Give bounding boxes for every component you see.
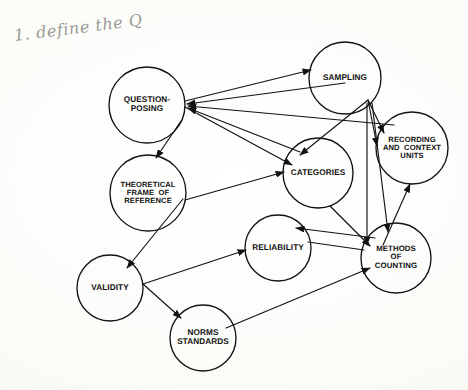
node-circle-question-posing [109,67,185,143]
edge-norms-standards-to-methods-of-counting [226,268,370,328]
edge-theoretical-frame-of-reference-to-categories [185,172,284,200]
node-circle-sampling [309,42,381,114]
node-circle-norms-standards [170,305,236,371]
edge-methods-of-counting-to-recording-and-context-units [383,184,410,245]
edge-sampling-to-question-posing [187,83,345,104]
diagram-canvas: QUESTION- POSINGSAMPLINGRECORDING AND CO… [0,0,468,390]
node-circle-methods-of-counting [361,223,431,293]
node-circle-theoretical-frame-of-reference [110,155,186,231]
node-circle-validity [77,255,143,321]
edge-sampling-to-methods-of-counting [372,103,388,232]
edge-validity-to-reliability [143,250,246,284]
edge-reliability-to-methods-of-counting [308,242,364,250]
edge-question-posing-to-theoretical-frame-of-reference [156,121,181,158]
edge-sampling-to-categories [300,100,368,155]
edge-layer [127,70,410,328]
edge-validity-to-norms-standards [143,284,181,318]
edge-question-posing-to-categories [185,107,292,165]
edge-theoretical-frame-of-reference-to-validity [127,199,183,268]
node-layer [77,42,448,371]
edge-categories-to-methods-of-counting [330,206,370,246]
node-circle-recording-and-context-units [376,112,448,184]
concept-map-graphics [0,0,468,390]
node-circle-categories [283,138,353,208]
node-circle-reliability [245,215,311,281]
